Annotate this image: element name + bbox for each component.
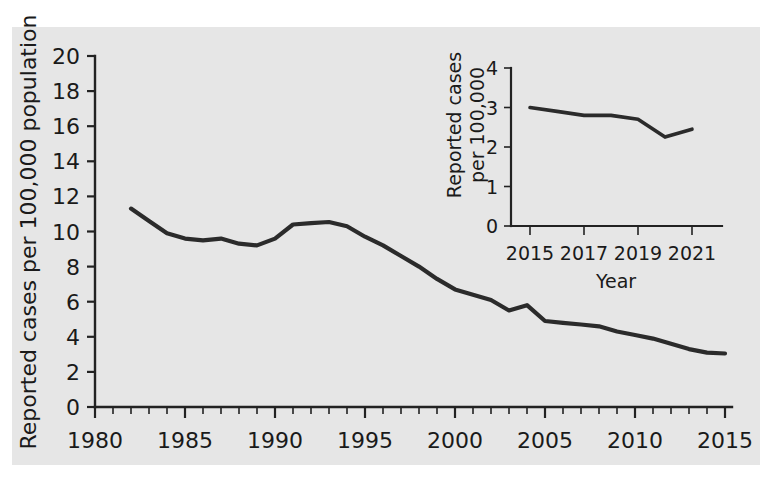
- inset-axes: [511, 68, 722, 226]
- x-ticklabel: 2010: [607, 428, 663, 453]
- x-ticklabel: 1995: [337, 428, 393, 453]
- y-ticklabel: 4: [66, 325, 80, 350]
- y-ticklabel: 16: [52, 114, 80, 139]
- main-y-axis-label: Reported cases per 100,000 population: [16, 14, 41, 449]
- inset-y-ticklabel: 0: [486, 215, 498, 237]
- inset-x-ticklabel: 2021: [668, 242, 716, 264]
- main-x-ticklabels: 1980 1985 1990 1995 2000 2005 2010 2015: [67, 428, 753, 453]
- main-x-major-ticks: [95, 407, 725, 418]
- y-ticklabel: 2: [66, 360, 80, 385]
- inset-x-ticklabel: 2015: [506, 242, 554, 264]
- inset-x-axis-label: Year: [595, 270, 636, 292]
- main-y-ticklabels: 0 2 4 6 8 10 12 14 16 18 20: [52, 44, 80, 420]
- inset-x-ticklabel: 2019: [614, 242, 662, 264]
- line-chart: 0 2 4 6 8 10 12 14 16 18 20: [0, 0, 773, 488]
- x-ticklabel: 1985: [157, 428, 213, 453]
- inset-y-axis-label-line2: per 100,000: [466, 67, 488, 183]
- y-ticklabel: 20: [52, 44, 80, 69]
- x-ticklabel: 1990: [247, 428, 303, 453]
- main-axes: [95, 56, 732, 407]
- inset-series-line: [530, 108, 692, 138]
- inset-x-ticklabel: 2017: [560, 242, 608, 264]
- y-ticklabel: 0: [66, 395, 80, 420]
- x-ticklabel: 1980: [67, 428, 123, 453]
- inset-y-axis-label-line1: Reported cases: [443, 52, 465, 198]
- y-ticklabel: 6: [66, 290, 80, 315]
- y-ticklabel: 12: [52, 184, 80, 209]
- y-ticklabel: 10: [52, 220, 80, 245]
- x-ticklabel: 2015: [697, 428, 753, 453]
- y-ticklabel: 14: [52, 149, 80, 174]
- y-ticklabel: 18: [52, 79, 80, 104]
- figure-container: 0 2 4 6 8 10 12 14 16 18 20: [0, 0, 773, 488]
- x-ticklabel: 2005: [517, 428, 573, 453]
- x-ticklabel: 2000: [427, 428, 483, 453]
- inset-x-ticks: [530, 226, 692, 235]
- y-ticklabel: 8: [66, 255, 80, 280]
- inset-x-ticklabels: 2015 2017 2019 2021: [506, 242, 716, 264]
